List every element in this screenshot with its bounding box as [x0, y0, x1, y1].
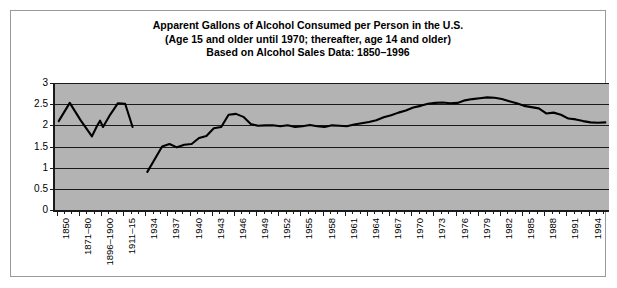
x-axis-tick-major: [566, 210, 567, 216]
x-axis-tick: [337, 210, 338, 214]
x-axis-tick: [160, 210, 161, 214]
x-axis-tick: [603, 210, 604, 214]
x-axis-tick: [581, 210, 582, 214]
x-axis-tick-major: [433, 210, 434, 216]
x-axis-tick: [552, 210, 553, 214]
x-axis-tick: [227, 210, 228, 214]
x-axis-label: 1850: [61, 218, 71, 239]
x-axis-tick-major: [123, 210, 124, 216]
x-axis-tick-major: [101, 210, 102, 216]
chart-figure: Apparent Gallons of Alcohol Consumed per…: [10, 10, 606, 277]
line-segment-post-prohibition: [147, 97, 605, 172]
x-axis-label: 1943: [216, 218, 226, 239]
y-axis-label: 1: [42, 163, 48, 173]
chart-title: Apparent Gallons of Alcohol Consumed per…: [11, 19, 605, 60]
x-axis-tick: [249, 210, 250, 214]
x-axis-label: 1934: [149, 218, 159, 239]
x-axis-tick: [293, 210, 294, 214]
line-segment-pre-prohibition: [59, 103, 133, 136]
x-axis-tick: [559, 210, 560, 214]
x-axis-label: 1937: [171, 218, 181, 239]
x-axis-tick: [271, 210, 272, 214]
y-axis-label: 3: [42, 78, 48, 88]
x-axis-tick-major: [278, 210, 279, 216]
x-axis-tick: [175, 210, 176, 214]
x-axis-tick: [374, 210, 375, 214]
x-axis-tick: [64, 210, 65, 214]
x-axis-tick: [204, 210, 205, 214]
x-axis-label: 1958: [327, 218, 337, 239]
chart-title-line-1: Apparent Gallons of Alcohol Consumed per…: [11, 19, 605, 33]
x-axis-tick-major: [478, 210, 479, 216]
x-axis-tick-major: [57, 210, 58, 216]
x-axis-tick-major: [300, 210, 301, 216]
x-axis-tick: [360, 210, 361, 214]
x-axis-tick: [493, 210, 494, 214]
y-axis-label: 2.5: [34, 99, 48, 109]
x-axis-tick-major: [544, 210, 545, 216]
chart-title-line-2: (Age 15 and older until 1970; thereafter…: [11, 33, 605, 47]
x-axis-tick: [108, 210, 109, 214]
x-axis-tick: [529, 210, 530, 214]
x-axis-tick: [507, 210, 508, 214]
x-axis-label: 1988: [548, 218, 558, 239]
x-axis-label: 1991: [570, 218, 580, 239]
x-axis-tick-major: [167, 210, 168, 216]
x-axis-label: 1961: [349, 218, 359, 239]
x-axis-tick: [308, 210, 309, 214]
x-axis-tick: [153, 210, 154, 214]
x-axis-tick-major: [411, 210, 412, 216]
x-axis-label: 1955: [304, 218, 314, 239]
x-axis-tick: [463, 210, 464, 214]
x-axis-label: 1896–1900: [105, 218, 115, 266]
x-axis-label: 1949: [260, 218, 270, 239]
x-axis-tick-major: [367, 210, 368, 216]
x-axis-label: 1982: [504, 218, 514, 239]
x-axis-tick: [574, 210, 575, 214]
x-axis-tick: [219, 210, 220, 214]
x-axis-tick: [330, 210, 331, 214]
chart-title-line-3: Based on Alcohol Sales Data: 1850–1996: [11, 46, 605, 60]
x-axis-tick: [515, 210, 516, 214]
data-line-series: [55, 83, 609, 210]
x-axis-tick-major: [256, 210, 257, 216]
x-axis-tick-major: [522, 210, 523, 216]
x-axis-tick: [485, 210, 486, 214]
x-axis-tick: [441, 210, 442, 214]
y-axis-label: 2: [42, 120, 48, 130]
x-axis-tick-major: [456, 210, 457, 216]
x-axis-tick: [131, 210, 132, 214]
x-axis-label: 1964: [371, 218, 381, 239]
x-axis-tick-major: [190, 210, 191, 216]
x-axis-tick: [315, 210, 316, 214]
x-axis-tick: [537, 210, 538, 214]
x-axis-label: 1946: [238, 218, 248, 239]
x-axis-tick: [182, 210, 183, 214]
x-axis-label: 1952: [282, 218, 292, 239]
y-axis-label: 1.5: [34, 142, 48, 152]
x-axis-tick: [426, 210, 427, 214]
x-axis-tick: [264, 210, 265, 214]
x-axis-label: 1985: [526, 218, 536, 239]
x-axis-tick-major: [323, 210, 324, 216]
x-axis-tick-major: [212, 210, 213, 216]
x-axis-label: 1967: [393, 218, 403, 239]
x-axis-tick: [94, 210, 95, 214]
x-axis-tick-major: [234, 210, 235, 216]
x-axis-tick: [138, 210, 139, 214]
x-axis-tick: [116, 210, 117, 214]
x-axis-tick: [286, 210, 287, 214]
plot-area: 00.511.522.53: [53, 83, 609, 212]
x-axis-tick: [352, 210, 353, 214]
x-axis-tick: [419, 210, 420, 214]
x-axis-tick-major: [345, 210, 346, 216]
x-axis-label: 1940: [194, 218, 204, 239]
y-axis-label: 0.5: [34, 184, 48, 194]
x-axis-tick: [404, 210, 405, 214]
x-axis-tick: [396, 210, 397, 214]
x-axis-tick: [470, 210, 471, 214]
x-axis-tick: [71, 210, 72, 214]
x-axis-tick-major: [145, 210, 146, 216]
x-axis-label: 1970: [415, 218, 425, 239]
x-axis-tick: [382, 210, 383, 214]
